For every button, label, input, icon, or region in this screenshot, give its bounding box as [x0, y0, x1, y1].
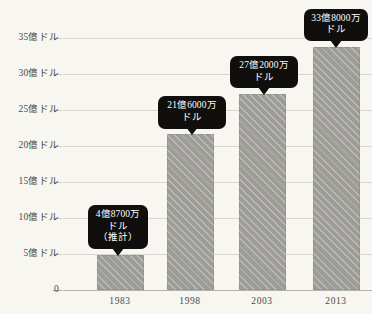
callout-line: ドル — [311, 24, 361, 36]
callout-tail — [112, 248, 124, 256]
y-axis-label: 15億ドル — [19, 177, 60, 187]
y-axis-label: 20億ドル — [19, 141, 60, 151]
callout-line: 4億8700万 — [95, 209, 141, 221]
y-axis-label: 5億ドル — [23, 249, 59, 259]
callout-tail — [258, 87, 270, 95]
gridline — [63, 290, 372, 291]
bar-2003[interactable] — [239, 94, 286, 290]
y-axis-label: 30億ドル — [19, 69, 60, 79]
x-axis-label-2003: 2003 — [232, 297, 292, 307]
bar-1998[interactable] — [167, 134, 214, 290]
callout-2013: 33億8000万ドル — [304, 9, 368, 41]
y-axis-label: 25億ドル — [19, 105, 60, 115]
x-axis-label-1998: 1998 — [160, 297, 220, 307]
bar-2013[interactable] — [313, 47, 360, 290]
callout-line: ドル — [165, 112, 219, 124]
callout-line: （推計） — [95, 232, 141, 244]
y-axis-label: 10億ドル — [19, 213, 60, 223]
callout-line: 27億2000万 — [237, 60, 291, 72]
bar-chart: 35億ドル30億ドル25億ドル20億ドル15億ドル10億ドル5億ドル0 1983… — [0, 0, 372, 314]
callout-tail — [186, 127, 198, 135]
y-axis-label: 0 — [54, 285, 59, 295]
callout-line: 33億8000万 — [311, 13, 361, 25]
callout-1983: 4億8700万ドル（推計） — [88, 205, 148, 249]
callout-line: ドル — [95, 221, 141, 233]
x-axis-label-2013: 2013 — [306, 297, 366, 307]
callout-line: 21億6000万 — [165, 100, 219, 112]
x-axis-label-1983: 1983 — [90, 297, 150, 307]
callout-1998: 21億6000万ドル — [158, 96, 226, 128]
callout-2003: 27億2000万ドル — [230, 56, 298, 88]
callout-line: ドル — [237, 72, 291, 84]
bar-1983[interactable] — [97, 255, 144, 290]
y-axis-label: 35億ドル — [19, 33, 60, 43]
callout-tail — [330, 40, 342, 48]
